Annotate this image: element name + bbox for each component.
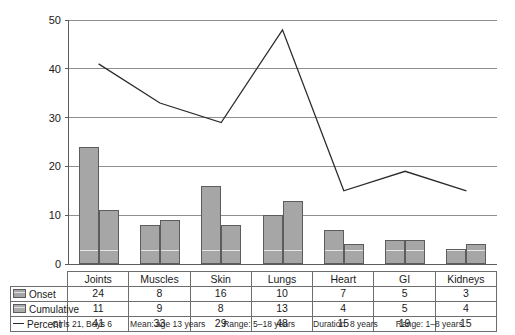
table-row: Onset2481610753: [11, 287, 497, 302]
footer-item: Mean: age 13 years: [130, 319, 205, 329]
y-tick-label: 20: [49, 160, 61, 172]
bar-onset-heart: [324, 230, 343, 263]
table-cell: 8: [129, 287, 190, 302]
table-header-muscles: Muscles: [129, 272, 190, 287]
table-cell: 4: [313, 301, 374, 316]
y-tick-label: 10: [49, 209, 61, 221]
footer-item: Range: 1–8 years: [396, 319, 463, 329]
table-cell: 10: [251, 287, 312, 302]
legend-cell-onset: Onset: [11, 287, 68, 302]
table-corner-cell: [11, 272, 68, 287]
table-header-kidneys: Kidneys: [435, 272, 496, 287]
footer-summary: Girls 21, Boys 6Mean: age 13 yearsRange:…: [0, 319, 515, 329]
table-cell: 4: [435, 301, 496, 316]
table-cell: 16: [190, 287, 251, 302]
bar-cumulative-gi: [406, 240, 425, 263]
plot-area: 01020304050: [0, 0, 515, 278]
table-cell: 9: [129, 301, 190, 316]
table-header-row: JointsMusclesSkinLungsHeartGIKidneys: [11, 272, 497, 287]
legend-label: Cumulative: [29, 304, 79, 315]
table-header-lungs: Lungs: [251, 272, 312, 287]
footer-item: Range: 5–18 years: [223, 319, 295, 329]
bar-onset-lungs: [263, 216, 282, 264]
table-cell: 8: [190, 301, 251, 316]
table-cell: 3: [435, 287, 496, 302]
y-axis-tick-labels: 01020304050: [49, 14, 61, 270]
table-header-gi: GI: [374, 272, 435, 287]
gridlines: [68, 20, 497, 215]
bar-cumulative-kidneys: [467, 245, 486, 264]
table-cell: 13: [251, 301, 312, 316]
bar-swatch-icon: [13, 304, 26, 313]
bar-cumulative-heart: [344, 245, 363, 264]
bar-onset-skin: [202, 186, 221, 263]
y-tick-label: 0: [55, 258, 61, 270]
chart-svg: 01020304050: [0, 0, 515, 278]
y-tick-label: 50: [49, 14, 61, 26]
bar-cumulative-joints: [99, 211, 118, 264]
table-cell: 7: [313, 287, 374, 302]
table-cell: 5: [374, 301, 435, 316]
table-header-skin: Skin: [190, 272, 251, 287]
y-tick-label: 30: [49, 112, 61, 124]
bar-onset-muscles: [140, 225, 159, 263]
bar-onset-joints: [79, 147, 98, 263]
table-header-joints: Joints: [68, 272, 129, 287]
legend-label: Onset: [29, 289, 56, 300]
table-cell: 24: [68, 287, 129, 302]
bar-onset-kidneys: [447, 250, 466, 264]
table-row: Cumulative119813454: [11, 301, 497, 316]
legend-cell-cumulative: Cumulative: [11, 301, 68, 316]
bar-swatch-icon: [13, 289, 26, 298]
bar-cumulative-lungs: [283, 201, 302, 263]
bar-cumulative-muscles: [160, 221, 179, 264]
bar-cumulative-skin: [222, 225, 241, 263]
footer-item: Duration: 8 years: [313, 319, 378, 329]
y-tick-label: 40: [49, 63, 61, 75]
table-header-heart: Heart: [313, 272, 374, 287]
footer-item: Girls 21, Boys 6: [52, 319, 112, 329]
bar-series-group: [79, 147, 486, 263]
figure-bar-line-chart: 01020304050 JointsMusclesSkinLungsHeartG…: [0, 0, 515, 335]
bar-onset-gi: [386, 240, 405, 263]
table-cell: 5: [374, 287, 435, 302]
